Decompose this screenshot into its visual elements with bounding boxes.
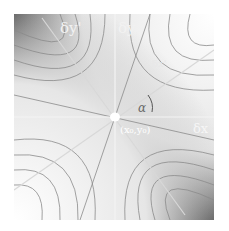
saddle-diagram: δy' δy δx' α (x₀,y₀) δx bbox=[0, 0, 229, 231]
label-dx-prime: δx' bbox=[152, 58, 166, 69]
label-alpha: α bbox=[138, 101, 146, 115]
label-dx: δx bbox=[193, 121, 209, 136]
label-point: (x₀,y₀) bbox=[120, 124, 150, 135]
saddle-point bbox=[110, 113, 120, 122]
label-dy-prime: δy' bbox=[60, 19, 82, 37]
label-dy: δy bbox=[118, 19, 136, 37]
